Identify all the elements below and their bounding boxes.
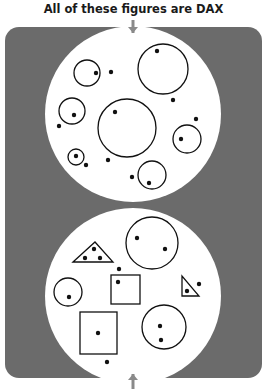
outside-dot: [105, 360, 109, 364]
inner-dot: [96, 331, 100, 335]
inner-dot: [163, 247, 167, 251]
inner-dot: [179, 137, 183, 141]
inner-dot: [135, 236, 139, 240]
outside-dot: [130, 175, 134, 179]
inner-dot: [94, 71, 98, 75]
outside-dot: [106, 158, 110, 162]
outside-dot: [84, 163, 88, 167]
outside-dot: [194, 117, 198, 121]
inner-dot: [113, 110, 117, 114]
inner-dot: [74, 154, 78, 158]
inner-dot: [83, 256, 87, 260]
outside-dot: [57, 124, 61, 128]
inner-dot: [155, 49, 159, 53]
inner-dot: [72, 113, 76, 117]
outside-dot: [109, 70, 113, 74]
inner-dot: [185, 289, 189, 293]
inner-dot: [116, 280, 120, 284]
inner-dot: [159, 338, 163, 342]
outside-dot: [197, 282, 201, 286]
outside-dot: [171, 98, 175, 102]
inner-dot: [92, 247, 96, 251]
inner-dot: [147, 181, 151, 185]
outside-dot: [117, 267, 121, 271]
inner-dot: [67, 295, 71, 299]
inner-dot: [158, 324, 162, 328]
inner-dot: [98, 256, 102, 260]
dax-figure-diagram: [0, 0, 267, 389]
